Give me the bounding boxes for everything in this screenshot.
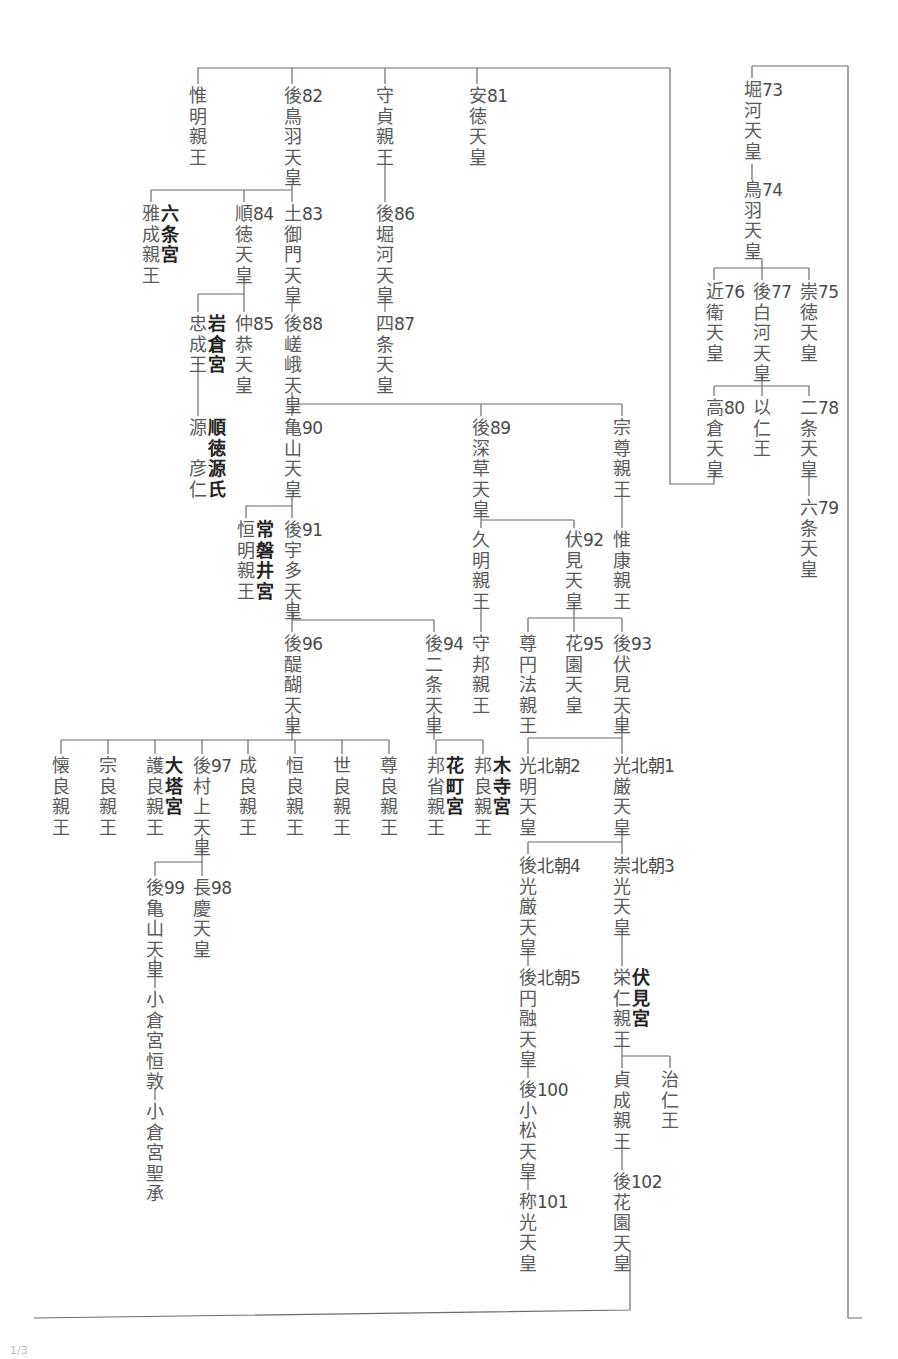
person-name: 順徳天皇	[234, 204, 253, 286]
person-name: 後小松天皇	[518, 1080, 537, 1183]
person-node-morikuni: 守邦親王	[471, 634, 490, 716]
reign-number: 北朝5	[537, 968, 580, 988]
person-name: 雅成親王	[141, 204, 160, 286]
person-node-takakura: 高倉天皇80	[705, 398, 745, 480]
person-node-gokameyama: 後亀山天皇99	[145, 878, 185, 981]
person-name: 成良親王	[238, 756, 257, 838]
person-name: 光厳天皇	[612, 756, 631, 838]
person-name: 六条天皇	[799, 498, 818, 580]
person-name: 惟康親王	[612, 530, 631, 612]
person-node-kogon: 光厳天皇北朝1	[612, 756, 674, 838]
person-name: 後伏見天皇	[612, 634, 631, 737]
person-node-koremei: 惟明親王	[188, 86, 207, 168]
person-name: 後光厳天皇	[518, 856, 537, 959]
person-node-goshirakawa: 後白河天皇77	[752, 282, 792, 385]
person-name: 貞成親王	[612, 1070, 631, 1152]
house-name-label: 大塔宮	[164, 756, 183, 818]
person-name: 久明親王	[471, 530, 490, 612]
person-name: 崇徳天皇	[799, 282, 818, 364]
person-name: 後二条天皇	[424, 634, 443, 737]
person-node-moriyoshi: 護良親王大塔宮	[145, 756, 183, 838]
house-name-label: 常磐井宮	[255, 520, 274, 602]
person-node-munetaka: 宗尊親王	[612, 418, 631, 500]
person-name: 仲恭天皇	[234, 314, 253, 396]
person-name: 鳥羽天皇	[743, 180, 762, 262]
person-name: 崇光天皇	[612, 856, 631, 938]
reign-number: 北朝1	[631, 756, 674, 776]
person-node-tsuneaki: 恒明親王常磐井宮	[236, 520, 274, 602]
person-name: 亀山天皇	[283, 418, 302, 500]
person-name: 安徳天皇	[468, 86, 487, 168]
person-node-gofushimi: 後伏見天皇93	[612, 634, 652, 737]
person-node-shijo: 四条天皇87	[375, 314, 415, 396]
person-node-tokiyoshi: 世良親王	[332, 756, 351, 838]
person-node-haruhito: 治仁王	[660, 1070, 679, 1132]
person-name: 後醍醐天皇	[283, 634, 302, 737]
person-name: 土御門天皇	[283, 204, 302, 307]
person-name: 小倉宮恒敦	[145, 990, 164, 1093]
person-node-toba: 鳥羽天皇74	[743, 180, 783, 262]
person-node-gohorikawa: 後堀河天皇86	[375, 204, 415, 307]
reign-number: 88	[302, 314, 323, 334]
person-node-godaigo: 後醍醐天皇96	[283, 634, 323, 737]
person-node-kunimi: 邦省親王花町宮	[426, 756, 464, 838]
person-node-gotoba: 後鳥羽天皇82	[283, 86, 323, 189]
person-name: 後鳥羽天皇	[283, 86, 302, 189]
person-name: 花園天皇	[564, 634, 583, 716]
reign-number: 96	[302, 634, 323, 654]
person-node-gokomatsu: 後小松天皇100	[518, 1080, 568, 1183]
person-name: 後白河天皇	[752, 282, 771, 385]
person-node-konoe: 近衛天皇76	[705, 282, 745, 364]
reign-number: 87	[394, 314, 415, 334]
person-node-chukyo: 仲恭天皇85	[234, 314, 274, 396]
reign-number: 95	[583, 634, 604, 654]
person-node-rokujo: 六条天皇79	[799, 498, 839, 580]
person-node-ogura1: 小倉宮恒敦	[145, 990, 164, 1093]
reign-number: 85	[253, 314, 274, 334]
reign-number: 79	[818, 498, 839, 518]
house-name-label: 六条宮	[160, 204, 179, 266]
reign-number: 80	[724, 398, 745, 418]
person-name: 護良親王	[145, 756, 164, 838]
reign-number: 89	[490, 418, 511, 438]
reign-number: 98	[211, 878, 232, 898]
person-node-komyo: 光明天皇北朝2	[518, 756, 580, 838]
person-node-mochihito: 以仁王	[752, 398, 771, 460]
person-node-gohanazono: 後花園天皇102	[612, 1172, 662, 1275]
person-name: 堀河天皇	[743, 80, 762, 162]
reign-number: 北朝3	[631, 856, 674, 876]
reign-number: 73	[762, 80, 783, 100]
person-node-juntoku: 順徳天皇84	[234, 204, 274, 286]
reign-number: 90	[302, 418, 323, 438]
house-name-label: 岩倉宮	[207, 314, 226, 376]
person-node-shoko: 称光天皇101	[518, 1192, 568, 1274]
person-node-antoku: 安徳天皇81	[468, 86, 508, 168]
person-node-gonijo: 後二条天皇94	[424, 634, 464, 737]
reign-number: 86	[394, 204, 415, 224]
person-node-gomurakami: 後村上天皇97	[192, 756, 232, 859]
person-node-nariyoshi: 成良親王	[238, 756, 257, 838]
person-name: 長慶天皇	[192, 878, 211, 960]
person-node-goenyu: 後円融天皇北朝5	[518, 968, 580, 1071]
person-name: 後円融天皇	[518, 968, 537, 1071]
person-name: 邦良親王	[473, 756, 492, 838]
reign-number: 93	[631, 634, 652, 654]
reign-number: 84	[253, 204, 274, 224]
reign-number: 91	[302, 520, 323, 540]
person-node-chokei: 長慶天皇98	[192, 878, 232, 960]
person-name: 後堀河天皇	[375, 204, 394, 307]
person-node-kaneyoshi: 懐良親王	[51, 756, 70, 838]
reign-number: 75	[818, 282, 839, 302]
reign-number: 94	[443, 634, 464, 654]
person-node-tsuneyoshi: 恒良親王	[285, 756, 304, 838]
person-node-kuniyoshi: 邦良親王木寺宮	[473, 756, 511, 838]
person-name: 後宇多天皇	[283, 520, 302, 623]
person-name: 光明天皇	[518, 756, 537, 838]
person-node-sonen: 尊円法親王	[518, 634, 537, 737]
reign-number: 81	[487, 86, 508, 106]
reign-number: 83	[302, 204, 323, 224]
person-name: 源彦仁	[188, 418, 207, 500]
person-node-takayoshi: 尊良親王	[379, 756, 398, 838]
person-node-koreyasu: 惟康親王	[612, 530, 631, 612]
person-name: 宗尊親王	[612, 418, 631, 500]
